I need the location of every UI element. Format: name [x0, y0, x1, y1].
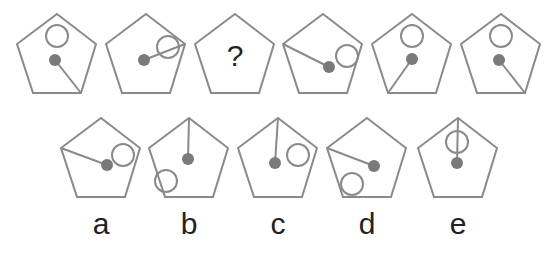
missing-figure: ?	[195, 14, 274, 93]
filled-dot	[493, 54, 505, 66]
filled-dot	[269, 157, 281, 169]
filled-dot	[368, 160, 380, 172]
question-mark: ?	[227, 39, 244, 72]
filled-dot	[451, 157, 463, 169]
option-label-c[interactable]: c	[258, 206, 298, 242]
option-figure-a[interactable]	[61, 118, 140, 197]
option-label-e[interactable]: e	[438, 206, 478, 242]
option-figure-b[interactable]	[149, 118, 228, 197]
pentagon-outline	[283, 14, 362, 93]
pentagon-outline	[327, 118, 406, 197]
option-figure-d[interactable]	[327, 118, 406, 197]
pentagon-outline	[106, 14, 185, 93]
filled-dot	[49, 54, 61, 66]
option-label-a[interactable]: a	[81, 206, 121, 242]
option-figure-e[interactable]	[418, 118, 497, 197]
connector-line	[457, 118, 458, 163]
sequence-figure-1	[17, 14, 96, 93]
option-figure-c[interactable]	[238, 118, 317, 197]
filled-dot	[323, 61, 335, 73]
pentagon-outline	[61, 118, 140, 197]
sequence-figure-5	[372, 14, 451, 93]
filled-dot	[406, 53, 418, 65]
filled-dot	[101, 159, 113, 171]
connector-line	[188, 118, 189, 159]
sequence-figure-4	[283, 14, 362, 93]
option-label-b[interactable]: b	[169, 206, 209, 242]
filled-dot	[138, 54, 150, 66]
sequence-figure-2	[106, 14, 185, 93]
filled-dot	[182, 153, 194, 165]
option-label-d[interactable]: d	[347, 206, 387, 242]
sequence-figure-6	[461, 14, 540, 93]
